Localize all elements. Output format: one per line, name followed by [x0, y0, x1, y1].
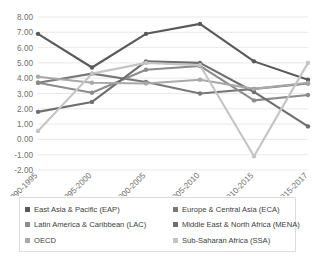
data-point-marker: [252, 98, 256, 102]
data-point-marker: [198, 63, 202, 67]
y-axis-tick-label: 8.00: [17, 13, 33, 22]
y-axis-tick-label: 3.00: [17, 90, 33, 99]
data-point-marker: [198, 91, 202, 95]
data-point-marker: [90, 65, 94, 69]
data-point-marker: [36, 110, 40, 114]
data-point-marker: [144, 68, 148, 72]
plot-area: 8.007.006.005.004.003.002.001.000.00-1.0…: [0, 0, 316, 196]
data-point-marker: [252, 154, 256, 158]
data-point-marker: [306, 61, 310, 65]
legend-swatch-icon: [25, 222, 30, 227]
data-point-marker: [36, 32, 40, 36]
legend-swatch-icon: [173, 238, 178, 243]
data-point-marker: [306, 93, 310, 97]
legend-swatch-icon: [173, 207, 178, 212]
legend-item-label: Europe & Central Asia (ECA): [182, 206, 280, 214]
data-point-marker: [198, 78, 202, 82]
y-axis-tick-label: 4.00: [17, 74, 33, 83]
chart-container: 8.007.006.005.004.003.002.001.000.00-1.0…: [0, 0, 316, 267]
data-point-marker: [36, 129, 40, 133]
x-axis-tick-label: 2005-2010: [167, 171, 201, 196]
data-point-marker: [252, 87, 256, 91]
data-point-marker: [198, 22, 202, 26]
y-axis-tick-label: -1.00: [14, 151, 33, 160]
legend-grid: East Asia & Pacific (EAP)Europe & Centra…: [25, 202, 290, 248]
legend-item-label: Middle East & North Africa (MENA): [182, 221, 300, 229]
data-point-marker: [90, 91, 94, 95]
series-lines: [38, 24, 308, 156]
chart-legend: East Asia & Pacific (EAP)Europe & Centra…: [19, 197, 296, 252]
data-point-marker: [90, 81, 94, 85]
x-axis-tick-label: 2015-2017: [275, 171, 309, 196]
data-point-marker: [306, 124, 310, 128]
legend-swatch-icon: [25, 238, 30, 243]
y-axis-tick-label: 0.00: [17, 135, 33, 144]
legend-item-label: Latin America & Caribbean (LAC): [34, 221, 146, 229]
y-axis-tick-label: 1.00: [17, 120, 33, 129]
legend-item-label: Sub-Saharan Africa (SSA): [182, 237, 270, 245]
x-axis-tick-label: 1995-2000: [59, 171, 93, 196]
data-point-marker: [90, 71, 94, 75]
x-axis-tick-labels: 1990-19951995-20002000-20052005-20102010…: [5, 171, 309, 196]
data-point-marker: [90, 100, 94, 104]
y-axis-tick-label: 5.00: [17, 59, 33, 68]
data-point-marker: [252, 59, 256, 63]
line-chart-svg: 8.007.006.005.004.003.002.001.000.00-1.0…: [0, 0, 316, 196]
legend-swatch-icon: [173, 222, 178, 227]
data-point-marker: [144, 81, 148, 85]
legend-item[interactable]: Europe & Central Asia (ECA): [173, 206, 300, 214]
legend-item[interactable]: East Asia & Pacific (EAP): [25, 206, 173, 214]
legend-item-label: OECD: [34, 237, 56, 245]
data-point-marker: [36, 81, 40, 85]
y-axis-tick-label: 2.00: [17, 105, 33, 114]
x-axis-tick-label: 2000-2005: [113, 171, 147, 196]
y-axis-tick-label: 7.00: [17, 28, 33, 37]
gridlines: [38, 17, 308, 170]
series-line-2: [38, 66, 308, 100]
legend-item[interactable]: Sub-Saharan Africa (SSA): [173, 237, 300, 245]
x-axis-tick-label: 2010-2015: [221, 171, 255, 196]
data-point-marker: [306, 81, 310, 85]
data-point-marker: [144, 32, 148, 36]
data-point-marker: [36, 74, 40, 78]
legend-item-label: East Asia & Pacific (EAP): [34, 206, 120, 214]
legend-item[interactable]: OECD: [25, 237, 173, 245]
y-axis-tick-label: 6.00: [17, 44, 33, 53]
data-point-marker: [144, 61, 148, 65]
legend-item[interactable]: Latin America & Caribbean (LAC): [25, 221, 173, 229]
y-axis-tick-labels: 8.007.006.005.004.003.002.001.000.00-1.0…: [14, 13, 33, 175]
legend-item[interactable]: Middle East & North Africa (MENA): [173, 221, 300, 229]
legend-swatch-icon: [25, 207, 30, 212]
